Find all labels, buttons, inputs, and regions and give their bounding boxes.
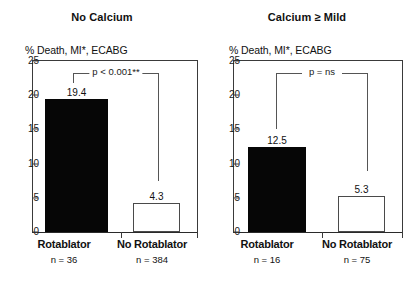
bar-rotablator-calcium-mild[interactable]: 12.5: [248, 147, 306, 233]
y-tick-mark-10: [234, 163, 239, 164]
y-tick-mark-20: [33, 95, 38, 96]
x-group-rotablator-no-calcium: Rotablator n = 36: [22, 238, 106, 265]
x-group-label: No Rotablator: [315, 238, 399, 250]
x-group-no-rotablator-no-calcium: No Rotablator n = 384: [110, 238, 194, 265]
bar-rotablator-no-calcium[interactable]: 19.4: [45, 99, 108, 232]
x-group-n: n = 36: [22, 254, 106, 265]
y-tick-mark-0: [33, 232, 38, 233]
panel-title-calcium-mild: Calcium ≥ Mild: [205, 11, 409, 23]
bar-value-rotablator-no-calcium: 19.4: [67, 87, 86, 98]
x-axis-end-tick-left: [197, 232, 198, 238]
p-value-right: p = ns: [306, 66, 338, 77]
y-tick-mark-5: [234, 197, 239, 198]
x-group-n: n = 75: [315, 254, 399, 265]
chart-panel-calcium-mild: Calcium ≥ Mild % Death, MI*, ECABG 0 5 1…: [205, 0, 409, 284]
y-axis-label-right: % Death, MI*, ECABG: [229, 44, 332, 56]
y-tick-mark-25: [33, 61, 38, 62]
x-group-n: n = 16: [225, 254, 309, 265]
p-value-left: p < 0.001**: [89, 66, 142, 77]
x-group-no-rotablator-calcium-mild: No Rotablator n = 75: [315, 238, 399, 265]
x-group-label: Rotablator: [22, 238, 106, 250]
bar-value-rotablator-calcium-mild: 12.5: [267, 135, 286, 146]
bar-value-no-rotablator-calcium-mild: 5.3: [355, 184, 369, 195]
y-tick-mark-0: [234, 232, 239, 233]
chart-panel-no-calcium: No Calcium % Death, MI*, ECABG 0 5 10 15…: [0, 0, 204, 284]
bar-no-rotablator-calcium-mild[interactable]: 5.3: [338, 196, 385, 232]
y-tick-mark-15: [33, 129, 38, 130]
y-tick-mark-25: [234, 61, 239, 62]
x-axis-end-tick-right: [402, 232, 403, 238]
y-tick-mark-20: [234, 95, 239, 96]
y-tick-mark-5: [33, 197, 38, 198]
bar-value-no-rotablator-no-calcium: 4.3: [150, 191, 164, 202]
x-group-label: Rotablator: [225, 238, 309, 250]
bar-no-rotablator-no-calcium[interactable]: 4.3: [133, 203, 180, 232]
y-axis-label-left: % Death, MI*, ECABG: [25, 44, 128, 56]
x-group-n: n = 384: [110, 254, 194, 265]
y-tick-mark-10: [33, 163, 38, 164]
plot-area-right: 0 5 10 15 20 25 p = ns 12.5 5.: [233, 60, 403, 233]
figure-root: No Calcium % Death, MI*, ECABG 0 5 10 15…: [0, 0, 409, 284]
panel-title-no-calcium: No Calcium: [0, 11, 204, 23]
x-group-label: No Rotablator: [110, 238, 194, 250]
y-tick-mark-15: [234, 129, 239, 130]
x-group-rotablator-calcium-mild: Rotablator n = 16: [225, 238, 309, 265]
plot-area-left: 0 5 10 15 20 25 p < 0.001** 19.4: [32, 60, 198, 233]
